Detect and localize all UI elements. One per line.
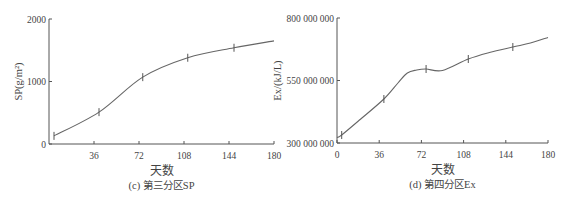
- chart-panel-c-sp: 3672108144180010002000SP(g/m²)天数(c) 第三分区…: [0, 0, 285, 201]
- sp-line-chart: 3672108144180010002000SP(g/m²)天数(c) 第三分区…: [0, 0, 285, 201]
- axes: [49, 19, 274, 144]
- x-tick-label: 72: [134, 151, 144, 161]
- x-tick-label: 144: [222, 151, 237, 161]
- figure-caption: (d) 第四分区Ex: [409, 178, 476, 191]
- figure-caption: (c) 第三分区SP: [129, 179, 195, 192]
- y-tick-label: 1000: [27, 77, 46, 87]
- y-tick-label: 0: [41, 140, 46, 150]
- data-line: [54, 41, 274, 136]
- y-tick-label: 800 000 000: [287, 14, 335, 24]
- y-tick-label: 300 000 000: [287, 139, 335, 149]
- x-tick-label: 36: [89, 151, 99, 161]
- x-axis-label: 天数: [431, 162, 455, 177]
- x-tick-label: 180: [541, 150, 556, 160]
- x-tick-label: 72: [417, 150, 427, 160]
- x-axis-label: 天数: [150, 163, 174, 178]
- y-axis-label: SP(g/m²): [13, 62, 25, 101]
- chart-panel-d-ex: 03672108144180300 000 000550 000 000800 …: [285, 0, 570, 201]
- x-tick-label: 108: [456, 150, 471, 160]
- x-tick-label: 108: [177, 151, 192, 161]
- x-tick-label: 36: [374, 150, 384, 160]
- x-tick-label: 0: [335, 150, 340, 160]
- data-line: [337, 38, 548, 138]
- x-tick-label: 144: [499, 150, 514, 160]
- y-axis-label: Ex/(kJ/L): [272, 60, 284, 101]
- x-tick-label: 180: [267, 151, 282, 161]
- y-tick-label: 550 000 000: [287, 76, 335, 86]
- y-tick-label: 2000: [27, 15, 46, 25]
- ex-line-chart: 03672108144180300 000 000550 000 000800 …: [285, 0, 570, 201]
- axes: [337, 18, 548, 143]
